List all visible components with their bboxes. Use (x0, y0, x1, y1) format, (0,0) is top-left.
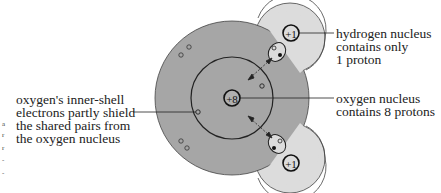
svg-text:a: a (2, 120, 6, 128)
svg-text:r: r (2, 144, 5, 152)
hydrogen-top-charge: +1 (285, 28, 297, 40)
label-line: the oxygen nucleus (16, 132, 135, 145)
oxygen-nucleus-label: oxygen nucleus contains 8 protons (336, 92, 435, 118)
svg-text:r: r (2, 131, 5, 139)
label-line: 1 proton (336, 53, 432, 66)
label-line: contains 8 protons (336, 105, 435, 118)
svg-text:-: - (2, 156, 5, 164)
margin-fragments: a r r - - (2, 120, 6, 177)
svg-text:-: - (2, 169, 5, 177)
hydrogen-bottom-charge: +1 (285, 158, 297, 170)
hydrogen-nucleus-label: hydrogen nucleus contains only 1 proton (336, 27, 432, 66)
oxygen-charge: +8 (226, 93, 238, 105)
inner-shell-label: oxygen's inner-shell electrons partly sh… (16, 93, 135, 145)
